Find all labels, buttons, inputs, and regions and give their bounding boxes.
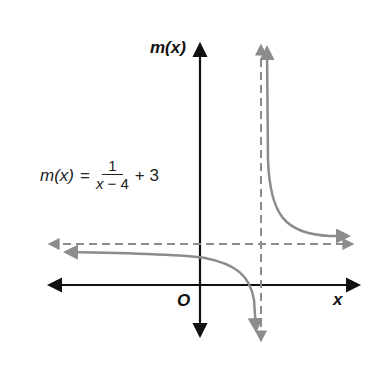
fraction-denominator: x − 4 <box>96 175 129 193</box>
equation-plus-constant: + 3 <box>135 166 159 186</box>
x-axis-label: x <box>333 290 342 310</box>
denominator-constant: − 4 <box>103 175 128 192</box>
fraction-numerator: 1 <box>102 158 122 175</box>
fraction: 1 x − 4 <box>96 158 129 193</box>
graph: m(x) x O m(x) = 1 x − 4 + 3 <box>0 0 376 365</box>
function-equation: m(x) = 1 x − 4 + 3 <box>40 158 159 193</box>
origin-label: O <box>177 291 190 311</box>
equation-lhs: m(x) <box>40 166 74 186</box>
equals-sign: = <box>80 166 90 186</box>
curve-left-branch <box>66 252 256 330</box>
curve-right-branch <box>267 48 348 236</box>
y-axis-label: m(x) <box>150 38 186 58</box>
